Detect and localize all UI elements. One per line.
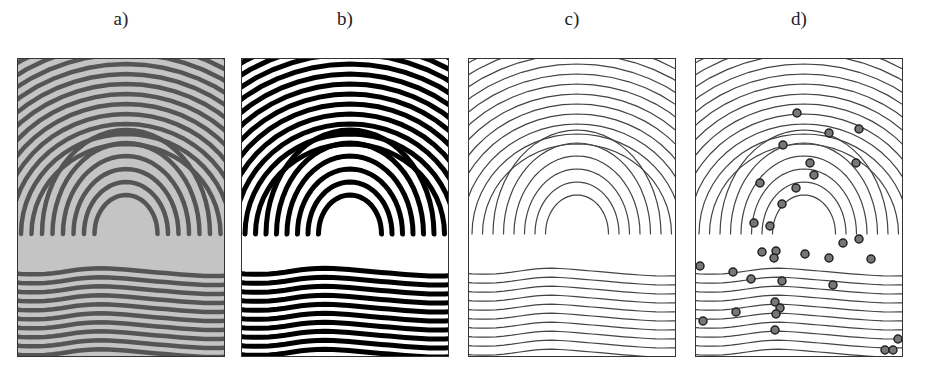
minutia-point bbox=[825, 129, 833, 137]
panel-b-label: b) bbox=[241, 8, 449, 30]
minutia-point bbox=[696, 262, 704, 270]
minutia-point bbox=[839, 239, 847, 247]
minutia-point bbox=[779, 141, 787, 149]
minutia-point bbox=[771, 326, 779, 334]
minutia-point bbox=[806, 159, 814, 167]
minutia-point bbox=[825, 254, 833, 262]
minutia-point bbox=[852, 159, 860, 167]
minutia-point bbox=[732, 308, 740, 316]
minutia-point bbox=[829, 281, 837, 289]
minutia-point bbox=[881, 346, 889, 354]
minutia-point bbox=[855, 125, 863, 133]
panel-c-ridge-skeleton bbox=[468, 58, 676, 357]
minutia-point bbox=[758, 248, 766, 256]
minutia-point bbox=[756, 179, 764, 187]
minutia-point bbox=[889, 346, 897, 354]
minutia-point bbox=[770, 254, 778, 262]
minutia-point bbox=[792, 184, 800, 192]
minutia-point bbox=[778, 200, 786, 208]
minutia-point bbox=[793, 109, 801, 117]
minutia-point bbox=[867, 255, 875, 263]
minutia-point bbox=[699, 317, 707, 325]
panel-a-grayscale-fingerprint bbox=[17, 58, 225, 357]
minutia-point bbox=[747, 275, 755, 283]
panel-b-binarized-fingerprint bbox=[241, 58, 449, 357]
minutia-point bbox=[766, 222, 774, 230]
minutia-point bbox=[855, 235, 863, 243]
minutia-point bbox=[801, 250, 809, 258]
minutia-point bbox=[810, 171, 818, 179]
panel-d-minutiae bbox=[695, 58, 903, 357]
minutia-point bbox=[894, 335, 902, 343]
panel-d-label: d) bbox=[695, 8, 903, 30]
minutia-point bbox=[729, 268, 737, 276]
minutia-point bbox=[750, 219, 758, 227]
minutia-point bbox=[778, 277, 786, 285]
minutia-point bbox=[772, 310, 780, 318]
panel-c-label: c) bbox=[468, 8, 676, 30]
panel-a-label: a) bbox=[17, 8, 225, 30]
